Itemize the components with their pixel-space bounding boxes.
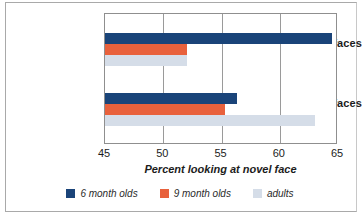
legend-swatch-icon-adults <box>253 189 262 198</box>
legend-swatch-icon-6-month-olds <box>66 189 75 198</box>
x-tick-label-60: 60 <box>273 147 285 159</box>
bar-monkey-faces-9-month-olds <box>105 44 187 55</box>
bar-human-faces-adults <box>105 115 315 126</box>
bar-monkey-faces-adults <box>105 55 187 66</box>
legend-swatch-icon-9-month-olds <box>160 189 169 198</box>
x-tick-label-55: 55 <box>214 147 226 159</box>
x-tick-label-50: 50 <box>156 147 168 159</box>
legend-label: 6 month olds <box>80 188 137 199</box>
chart-legend: 6 month olds9 month oldsadults <box>30 188 330 199</box>
legend-item-9-month-olds[interactable]: 9 month olds <box>160 188 231 199</box>
legend-item-adults[interactable]: adults <box>253 188 294 199</box>
plot-area <box>104 13 337 144</box>
x-tick-label-65: 65 <box>331 147 343 159</box>
legend-label: 9 month olds <box>174 188 231 199</box>
x-axis-title: Percent looking at novel face <box>104 163 337 175</box>
bar-human-faces-6-month-olds <box>105 93 237 104</box>
legend-label: adults <box>267 188 294 199</box>
chart-figure: Monkey faces Human faces 4550556065 Perc… <box>0 0 362 217</box>
bar-human-faces-9-month-olds <box>105 104 225 115</box>
x-tick-label-45: 45 <box>98 147 110 159</box>
legend-item-6-month-olds[interactable]: 6 month olds <box>66 188 137 199</box>
bar-monkey-faces-6-month-olds <box>105 33 332 44</box>
